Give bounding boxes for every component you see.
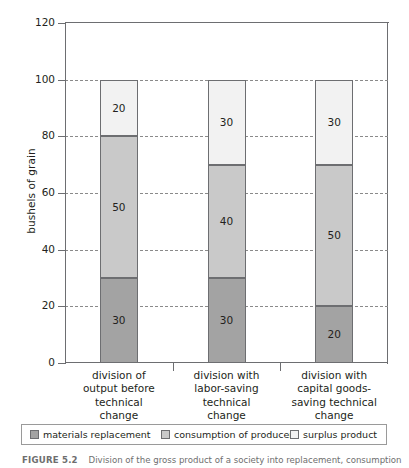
y-axis-tick: [58, 193, 66, 194]
x-axis-category-line: capital goods-: [280, 382, 388, 395]
bar-segment-value: 30: [220, 315, 233, 326]
y-axis-tick-label: 20: [3, 299, 55, 311]
legend-item: consumption of producers: [161, 429, 298, 440]
bar-group: 205030: [315, 23, 353, 363]
y-axis-tick-label: 100: [3, 73, 55, 85]
chart-legend: materials replacementconsumption of prod…: [21, 424, 387, 445]
y-axis-tick: [58, 80, 66, 81]
x-axis-category-line: change: [65, 409, 173, 422]
bar-segment-value: 30: [327, 117, 340, 128]
bar-segment: 30: [208, 278, 246, 363]
x-axis-category-line: division of: [65, 369, 173, 382]
legend-swatch-icon: [290, 430, 299, 439]
bar-group: 305020: [100, 23, 138, 363]
bar-segment: 30: [208, 80, 246, 165]
x-axis-category-line: labor-saving: [173, 382, 281, 395]
x-axis-category-label: division withlabor-savingtechnicalchange: [173, 369, 281, 422]
bar-segment: 20: [100, 80, 138, 137]
bar-segment-value: 50: [112, 202, 125, 213]
y-axis-tick-label: 60: [3, 186, 55, 198]
x-axis-category-label: division ofoutput beforetechnicalchange: [65, 369, 173, 422]
figure-container: bushels of grain 020406080100120 3050203…: [0, 0, 409, 468]
y-axis-tick-label: 80: [3, 129, 55, 141]
y-axis-tick: [58, 250, 66, 251]
y-axis-tick: [58, 23, 66, 24]
bar-segment: 50: [315, 165, 353, 307]
bar-segment-value: 50: [327, 230, 340, 241]
x-axis-category-line: technical: [173, 396, 281, 409]
y-axis-tick: [58, 136, 66, 137]
legend-label: materials replacement: [43, 429, 151, 440]
legend-label: surplus product: [303, 429, 377, 440]
bar-segment: 50: [100, 136, 138, 278]
y-axis-tick-label: 120: [3, 16, 55, 28]
x-axis-category-line: output before: [65, 382, 173, 395]
figure-caption-label: FIGURE 5.2: [22, 455, 78, 465]
x-axis-category-line: change: [280, 409, 388, 422]
bar-segment: 20: [315, 306, 353, 363]
bar-segment-value: 20: [112, 103, 125, 114]
legend-label: consumption of producers: [174, 429, 298, 440]
legend-swatch-icon: [161, 430, 170, 439]
bar-segment: 40: [208, 165, 246, 278]
figure-caption-text: Division of the gross product of a socie…: [89, 455, 402, 465]
legend-swatch-icon: [30, 430, 39, 439]
y-axis-tick: [58, 306, 66, 307]
legend-item: surplus product: [290, 429, 377, 440]
bar-segment-value: 30: [220, 117, 233, 128]
bar-segment: 30: [100, 278, 138, 363]
bar-segment-value: 40: [220, 216, 233, 227]
x-axis-category-line: technical: [65, 396, 173, 409]
x-axis-category-line: division with: [280, 369, 388, 382]
bar-segment: 30: [315, 80, 353, 165]
figure-caption: FIGURE 5.2 Division of the gross product…: [22, 455, 402, 468]
x-axis-category-line: division with: [173, 369, 281, 382]
x-axis-category-label: division withcapital goods-saving techni…: [280, 369, 388, 422]
x-axis-category-line: saving technical: [280, 396, 388, 409]
y-axis-tick: [58, 363, 66, 364]
x-axis-category-line: change: [173, 409, 281, 422]
y-axis-tick-label: 0: [3, 356, 55, 368]
y-axis-tick-label: 40: [3, 243, 55, 255]
bar-group: 304030: [208, 23, 246, 363]
legend-item: materials replacement: [30, 429, 151, 440]
bar-segment-value: 20: [327, 329, 340, 340]
bar-segment-value: 30: [112, 315, 125, 326]
